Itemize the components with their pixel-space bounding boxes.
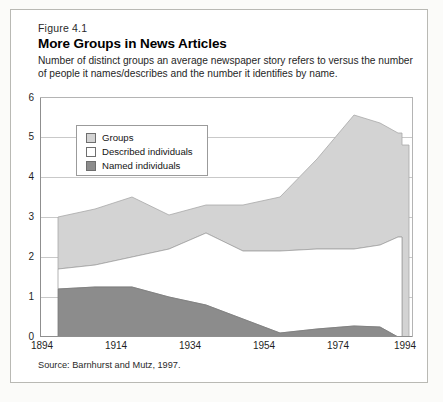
- figure-subtitle: Number of distinct groups an average new…: [38, 55, 413, 80]
- y-tick-4: 4: [18, 171, 34, 182]
- y-tick-1: 1: [18, 291, 34, 302]
- legend-label-groups: Groups: [102, 132, 133, 143]
- legend-label-named: Named individuals: [102, 160, 180, 171]
- legend-item-groups[interactable]: Groups: [86, 131, 207, 144]
- y-tick-2: 2: [18, 251, 34, 262]
- x-tick-1994: 1994: [385, 340, 425, 351]
- y-tick-6: 6: [18, 92, 34, 103]
- figure-number: Figure 4.1: [38, 22, 87, 34]
- x-tick-1974: 1974: [318, 340, 358, 351]
- figure-page: Figure 4.1 More Groups in News Articles …: [0, 0, 443, 402]
- figure-source: Source: Barnhurst and Mutz, 1997.: [38, 360, 181, 370]
- chart-legend: Groups Described individuals Named indiv…: [76, 125, 208, 176]
- x-tick-1934: 1934: [170, 340, 210, 351]
- legend-item-named[interactable]: Named individuals: [86, 159, 207, 172]
- x-tick-1894: 1894: [22, 340, 62, 351]
- legend-label-described: Described individuals: [102, 146, 193, 157]
- y-tick-5: 5: [18, 131, 34, 142]
- x-tick-1914: 1914: [96, 340, 136, 351]
- legend-swatch-described-icon: [86, 147, 96, 157]
- legend-item-described[interactable]: Described individuals: [86, 145, 207, 158]
- figure-title: More Groups in News Articles: [38, 36, 227, 51]
- x-tick-1954: 1954: [244, 340, 284, 351]
- legend-swatch-groups-icon: [86, 133, 96, 143]
- y-tick-3: 3: [18, 211, 34, 222]
- legend-swatch-named-icon: [86, 161, 96, 171]
